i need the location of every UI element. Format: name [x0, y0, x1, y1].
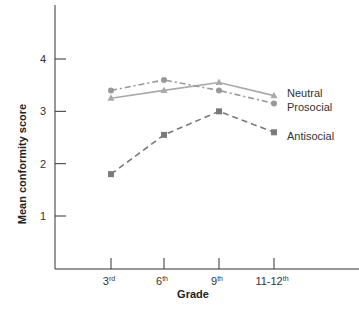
series-group	[108, 77, 278, 177]
x-ticks: 3rd6th9th11-12th	[103, 258, 289, 287]
x-tick-label: 11-12th	[255, 275, 288, 287]
legend-label-neutral: Neutral	[287, 87, 322, 99]
y-ticks: 1234	[40, 53, 66, 222]
series-prosocial	[108, 77, 277, 107]
x-tick-label: 3rd	[103, 275, 115, 287]
square-marker	[271, 129, 277, 135]
line-chart: 1234 3rd6th9th11-12th Mean conformity sc…	[0, 0, 359, 309]
y-tick-label: 3	[40, 105, 46, 117]
circle-marker	[161, 77, 167, 83]
legend-label-prosocial: Prosocial	[287, 101, 332, 113]
series-antisocial	[108, 108, 277, 177]
square-marker	[161, 132, 167, 138]
triangle-marker	[216, 79, 223, 86]
square-marker	[216, 108, 222, 114]
x-axis-title: Grade	[177, 288, 209, 300]
y-axis-title: Mean conformity score	[16, 104, 28, 224]
square-marker	[108, 171, 114, 177]
legend: NeutralProsocialAntisocial	[287, 87, 334, 142]
circle-marker	[216, 87, 222, 93]
circle-marker	[271, 100, 277, 106]
y-tick-label: 4	[40, 53, 46, 65]
x-tick-label: 9th	[211, 275, 223, 287]
y-tick-label: 2	[40, 158, 46, 170]
series-neutral	[108, 79, 278, 101]
circle-marker	[108, 87, 114, 93]
x-tick-label: 6th	[156, 275, 168, 287]
y-tick-label: 1	[40, 210, 46, 222]
legend-label-antisocial: Antisocial	[287, 130, 334, 142]
